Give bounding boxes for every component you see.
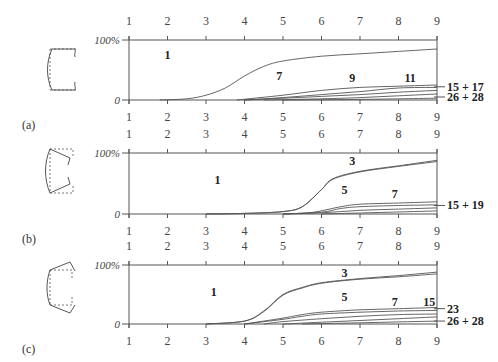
region-label: 9 <box>349 71 355 85</box>
bottom-tick-label: 1 <box>126 334 132 348</box>
deformed-outline <box>46 149 71 193</box>
bottom-tick-label: 9 <box>434 224 440 238</box>
top-tick-label: 7 <box>357 127 363 141</box>
region-label: 1 <box>211 285 217 299</box>
top-tick-label: 6 <box>319 14 325 28</box>
top-tick-label: 9 <box>434 14 440 28</box>
region-label: 7 <box>392 295 398 309</box>
bottom-tick-label: 7 <box>357 334 363 348</box>
bottom-tick-label: 3 <box>203 110 209 124</box>
bottom-tick-label: 7 <box>357 110 363 124</box>
bottom-tick-label: 5 <box>280 224 286 238</box>
bottom-tick-label: 7 <box>357 224 363 238</box>
bottom-tick-label: 8 <box>396 334 402 348</box>
panel-label: (b) <box>22 232 36 246</box>
panel-label: (a) <box>22 118 35 132</box>
top-tick-label: 3 <box>203 239 209 253</box>
region-label: 5 <box>342 290 348 304</box>
top-tick-label: 1 <box>126 239 132 253</box>
region-label: 1 <box>215 173 221 187</box>
bottom-tick-label: 5 <box>280 334 286 348</box>
top-tick-label: 6 <box>319 127 325 141</box>
y-zero-label: 0 <box>115 318 121 330</box>
bottom-tick-label: 3 <box>203 224 209 238</box>
bottom-tick-label: 9 <box>434 110 440 124</box>
bottom-tick-label: 6 <box>319 110 325 124</box>
chart-figure: (a)100%01122334455667788991791115 + 1726… <box>0 0 498 362</box>
series-right-label: 15 + 19 <box>447 198 484 212</box>
region-label: 1 <box>165 48 171 62</box>
bottom-tick-label: 2 <box>165 224 171 238</box>
y-max-label: 100% <box>94 259 120 271</box>
bottom-tick-label: 1 <box>126 110 132 124</box>
y-max-label: 100% <box>94 147 120 159</box>
region-label: 7 <box>392 187 398 201</box>
region-label: 3 <box>342 266 348 280</box>
top-tick-label: 2 <box>165 239 171 253</box>
panel-b: (b)100%0112233445566778899135715 + 19 <box>22 127 484 246</box>
top-tick-label: 3 <box>203 127 209 141</box>
top-tick-label: 8 <box>396 127 402 141</box>
top-tick-label: 9 <box>434 127 440 141</box>
region-label: 5 <box>342 183 348 197</box>
top-tick-label: 2 <box>165 14 171 28</box>
series-right-label: 26 + 28 <box>447 314 484 328</box>
top-tick-label: 8 <box>396 14 402 28</box>
cross-section-shape-icon <box>47 262 75 313</box>
series-right-label: 26 + 28 <box>447 90 484 104</box>
undeformed-outline <box>50 149 73 193</box>
top-tick-label: 1 <box>126 14 132 28</box>
bottom-tick-label: 6 <box>319 224 325 238</box>
top-tick-label: 4 <box>242 14 248 28</box>
series-curve <box>206 160 437 214</box>
top-tick-label: 5 <box>280 239 286 253</box>
bottom-tick-label: 4 <box>242 110 248 124</box>
top-tick-label: 5 <box>280 14 286 28</box>
cross-section-shape-icon <box>48 49 77 90</box>
top-tick-label: 4 <box>242 127 248 141</box>
bottom-tick-label: 3 <box>203 334 209 348</box>
deformed-outline <box>48 49 76 90</box>
bottom-tick-label: 8 <box>396 110 402 124</box>
bottom-tick-label: 1 <box>126 224 132 238</box>
bottom-tick-label: 2 <box>165 334 171 348</box>
top-tick-label: 5 <box>280 127 286 141</box>
y-max-label: 100% <box>94 34 120 46</box>
series-curve <box>206 274 437 324</box>
bottom-tick-label: 2 <box>165 110 171 124</box>
region-label: 7 <box>276 69 282 83</box>
top-tick-label: 2 <box>165 127 171 141</box>
panel-label: (c) <box>22 342 35 356</box>
series-curve <box>264 314 437 324</box>
cross-section-shape-icon <box>46 149 74 193</box>
undeformed-outline <box>50 49 76 90</box>
region-label: 11 <box>404 71 415 85</box>
y-zero-label: 0 <box>115 94 121 106</box>
undeformed-outline <box>50 270 72 305</box>
bottom-tick-label: 8 <box>396 224 402 238</box>
bottom-tick-label: 9 <box>434 334 440 348</box>
y-zero-label: 0 <box>115 208 121 220</box>
series-curve <box>206 162 437 215</box>
bottom-tick-label: 4 <box>242 224 248 238</box>
top-tick-label: 1 <box>126 127 132 141</box>
top-tick-label: 3 <box>203 14 209 28</box>
top-tick-label: 7 <box>357 14 363 28</box>
series-curve <box>206 272 437 324</box>
top-tick-label: 9 <box>434 239 440 253</box>
region-label: 3 <box>349 154 355 168</box>
bottom-tick-label: 6 <box>319 334 325 348</box>
region-label: 15 <box>423 295 435 309</box>
panel-c: (c)100%01122334455667788991357152326 + 2… <box>22 239 484 356</box>
top-tick-label: 4 <box>242 239 248 253</box>
top-tick-label: 7 <box>357 239 363 253</box>
panel-a: (a)100%01122334455667788991791115 + 1726… <box>22 14 484 132</box>
top-tick-label: 6 <box>319 239 325 253</box>
bottom-tick-label: 5 <box>280 110 286 124</box>
top-tick-label: 8 <box>396 239 402 253</box>
bottom-tick-label: 4 <box>242 334 248 348</box>
